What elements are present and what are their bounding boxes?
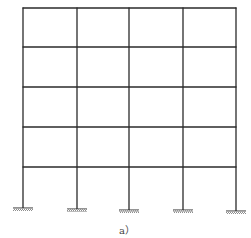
frame-diagram bbox=[0, 0, 251, 238]
figure-caption: a） bbox=[119, 222, 135, 237]
fixed-support-icon bbox=[13, 208, 33, 211]
columns-group bbox=[23, 8, 236, 212]
fixed-support-icon bbox=[119, 210, 139, 213]
fixed-support-icon bbox=[173, 210, 193, 213]
fixed-support-icon bbox=[67, 209, 87, 212]
fixed-support-icon bbox=[226, 211, 246, 214]
